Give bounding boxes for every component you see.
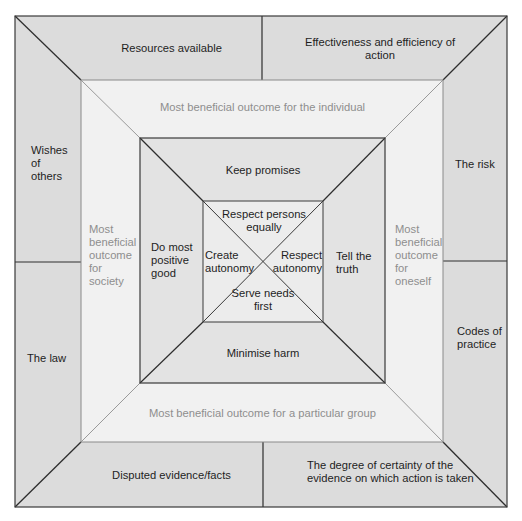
label-tell-the-truth: Tell the truth bbox=[336, 250, 381, 276]
label-wishes-of-others: Wishes of others bbox=[31, 144, 71, 183]
label-respect-autonomy: Respect autonomy bbox=[272, 249, 322, 275]
label-the-risk: The risk bbox=[455, 158, 505, 171]
label-keep-promises: Keep promises bbox=[203, 164, 323, 177]
ethical-grid-diagram: Resources available Effectiveness and ef… bbox=[0, 0, 522, 521]
label-outcome-individual: Most beneficial outcome for the individu… bbox=[140, 101, 385, 114]
label-the-law: The law bbox=[27, 352, 81, 365]
label-resources-available: Resources available bbox=[81, 42, 262, 55]
label-serve-needs-first: Serve needs first bbox=[230, 287, 296, 313]
label-disputed-evidence: Disputed evidence/facts bbox=[81, 469, 262, 482]
label-effectiveness-efficiency: Effectiveness and efficiency of action bbox=[300, 36, 460, 62]
label-outcome-oneself: Most beneficial outcome for oneself bbox=[395, 223, 445, 288]
label-outcome-particular-group: Most beneficial outcome for a particular… bbox=[140, 407, 385, 420]
label-outcome-society: Most beneficial outcome for society bbox=[89, 223, 139, 288]
label-do-most-positive-good: Do most positive good bbox=[151, 241, 201, 280]
label-degree-of-certainty: The degree of certainty of the evidence … bbox=[307, 459, 477, 485]
label-codes-of-practice: Codes of practice bbox=[457, 325, 502, 351]
label-respect-persons-equally: Respect persons equally bbox=[218, 208, 310, 234]
label-create-autonomy: Create autonomy bbox=[205, 249, 253, 275]
label-minimise-harm: Minimise harm bbox=[203, 347, 323, 360]
